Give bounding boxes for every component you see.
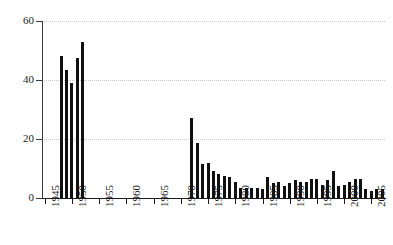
gridline-20: [42, 139, 385, 140]
x-tick-label-1960: 1960: [131, 185, 142, 207]
x-tick-label-1990: 1990: [295, 185, 306, 207]
x-tick-label-1970: 1970: [186, 185, 197, 207]
x-tick-1965: [154, 199, 155, 204]
x-tick-label-1945: 1945: [50, 185, 61, 207]
bar: [228, 177, 231, 198]
bar: [76, 58, 79, 198]
x-tick-label-1955: 1955: [104, 185, 115, 207]
bar: [343, 185, 346, 198]
x-tick-1980: [235, 199, 236, 204]
x-tick-label-2000: 2000: [349, 185, 360, 207]
bar: [261, 189, 264, 198]
y-tick-label-40: 40: [0, 74, 34, 85]
bar: [60, 56, 63, 198]
bar: [370, 191, 373, 198]
x-tick-label-1985: 1985: [268, 185, 279, 207]
x-tick-1950: [72, 199, 73, 204]
bar: [337, 186, 340, 198]
x-tick-label-1965: 1965: [159, 185, 170, 207]
bar-chart: 0204060 19451950195519601965197019751980…: [0, 0, 393, 245]
x-tick-label-1980: 1980: [240, 185, 251, 207]
x-tick-2000: [344, 199, 345, 204]
bar: [81, 42, 84, 198]
bar: [256, 188, 259, 198]
x-tick-label-1950: 1950: [77, 185, 88, 207]
bar: [310, 179, 313, 198]
x-tick-2005: [371, 199, 372, 204]
bar: [283, 186, 286, 198]
gridline-40: [42, 80, 385, 81]
bar: [315, 179, 318, 198]
gridline-60: [42, 21, 385, 22]
x-tick-1955: [99, 199, 100, 204]
bar: [70, 83, 73, 198]
x-tick-1975: [208, 199, 209, 204]
plot-area: [42, 21, 385, 198]
x-tick-label-1975: 1975: [213, 185, 224, 207]
bar: [207, 163, 210, 198]
y-tick-label-60: 60: [0, 15, 34, 26]
y-axis-line: [42, 21, 43, 199]
x-tick-1985: [263, 199, 264, 204]
x-tick-label-1995: 1995: [322, 185, 333, 207]
bar: [201, 164, 204, 198]
x-tick-1960: [126, 199, 127, 204]
bar: [288, 183, 291, 198]
x-tick-1995: [317, 199, 318, 204]
x-tick-1990: [290, 199, 291, 204]
x-tick-1945: [45, 199, 46, 204]
bar: [65, 70, 68, 198]
bar: [364, 189, 367, 198]
x-tick-1970: [181, 199, 182, 204]
y-tick-label-20: 20: [0, 133, 34, 144]
bar: [234, 182, 237, 198]
x-tick-label-2005: 2005: [376, 185, 387, 207]
y-tick-label-0: 0: [0, 192, 34, 203]
